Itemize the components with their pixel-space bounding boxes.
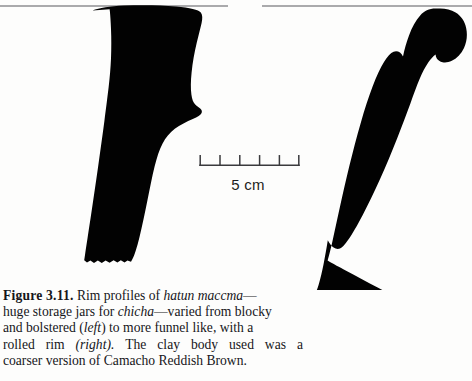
caption-word: rim (46, 337, 65, 353)
caption-text: Rim profiles of (74, 288, 164, 303)
caption-word: body (191, 337, 218, 353)
caption-text: huge storage jars for (3, 304, 118, 319)
funnel-rolled-rim-profile (315, 8, 467, 290)
caption-text: — (243, 288, 257, 303)
italic-term-hatun-maccma: hatun maccma (163, 288, 243, 303)
caption-word: used (229, 337, 254, 353)
caption-text: and bolstered ( (3, 320, 84, 335)
caption-word: clay (157, 337, 180, 353)
caption-word: rolled (3, 337, 35, 353)
italic-term-left: left (84, 320, 101, 335)
scale-bar-label: 5 cm (196, 176, 300, 193)
caption-word: The (125, 337, 146, 353)
italic-term-chicha: chicha (118, 304, 154, 319)
figure-caption: Figure 3.11. Rim profiles of hatun maccm… (3, 288, 303, 369)
caption-line-1: Figure 3.11. Rim profiles of hatun maccm… (3, 288, 303, 304)
caption-word: a (297, 337, 303, 353)
figure-number: Figure 3.11. (3, 288, 74, 303)
caption-line-4: rolled rim (right). The clay body used w… (3, 337, 303, 353)
caption-text: —varied from blocky (154, 304, 272, 319)
vessel-profile-illustration (0, 0, 472, 290)
scale-bar: 5 cm (196, 152, 304, 198)
figure-page: 5 cm Figure 3.11. Rim profiles of hatun … (0, 0, 472, 381)
blocky-bolstered-rim-profile (84, 5, 202, 263)
caption-word: was (265, 337, 286, 353)
caption-text: ) to more funnel like, with a (101, 320, 253, 335)
caption-line-3: and bolstered (left) to more funnel like… (3, 320, 303, 336)
italic-term-right: (right). (75, 337, 114, 353)
caption-line-2: huge storage jars for chicha—varied from… (3, 304, 303, 320)
caption-line-5: coarser version of Camacho Reddish Brown… (3, 353, 303, 369)
scale-bar-ticks (200, 156, 299, 165)
